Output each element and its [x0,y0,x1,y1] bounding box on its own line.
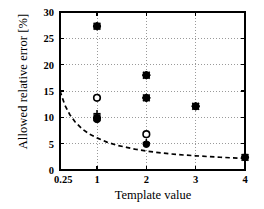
x-tick-label: 3 [193,174,198,185]
y-tick-label: 20 [44,60,55,71]
x-tick-label: 0.25 [54,174,72,185]
x-tick-label: 4 [242,174,248,185]
y-tick-label: 10 [44,112,55,123]
x-tick-label: 2 [144,174,149,185]
grid-lines [60,12,245,170]
data-points [93,22,249,161]
y-tick-label: 15 [44,86,55,97]
trend-curve [60,91,245,158]
y-tick-label: 30 [44,7,55,18]
y-tick-label: 5 [49,139,54,150]
y-tick-label: 25 [44,33,55,44]
chart-figure: Allowed relative error [%] Template valu… [0,0,264,209]
scatter-plot-canvas: 0510152025300.251234 [0,0,264,209]
x-tick-label: 1 [94,174,99,185]
